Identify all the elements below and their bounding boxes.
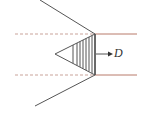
diagram-canvas — [0, 0, 149, 114]
upper-slant-line — [40, 0, 95, 34]
arrow-head-icon — [108, 52, 113, 57]
label-D: D — [114, 47, 123, 59]
triangle-hatching — [73, 36, 92, 74]
lower-slant-line — [35, 75, 95, 106]
